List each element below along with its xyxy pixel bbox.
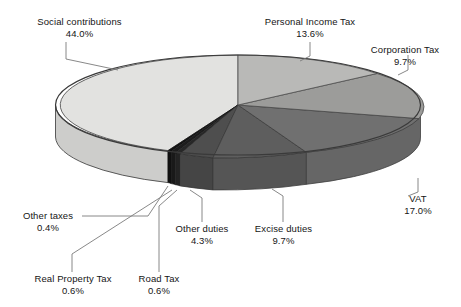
- label-personal-income-tax-value: 13.6%: [245, 28, 375, 40]
- pie-chart-figure: Social contributions 44.0% Personal Inco…: [0, 0, 461, 307]
- label-vat-name: VAT: [392, 193, 444, 205]
- pie-wall-road-tax: [176, 153, 181, 186]
- label-real-property-tax-name: Real Property Tax: [23, 273, 123, 285]
- label-other-taxes: Other taxes 0.4%: [12, 210, 84, 234]
- pie-wall-other-duties: [180, 154, 213, 190]
- label-vat-value: 17.0%: [392, 205, 444, 217]
- label-personal-income-tax: Personal Income Tax 13.6%: [245, 16, 375, 40]
- pie-wall-real-property-tax: [171, 152, 176, 185]
- label-other-taxes-value: 0.4%: [12, 222, 84, 234]
- label-corporation-tax-value: 9.7%: [355, 56, 455, 68]
- label-other-duties-name: Other duties: [158, 223, 246, 235]
- label-social-contributions: Social contributions 44.0%: [12, 16, 147, 40]
- leader-line-excise-duties: [272, 189, 283, 222]
- label-other-duties-value: 4.3%: [158, 235, 246, 247]
- label-personal-income-tax-name: Personal Income Tax: [245, 16, 375, 28]
- label-corporation-tax-name: Corporation Tax: [355, 44, 455, 56]
- label-excise-duties: Excise duties 9.7%: [236, 223, 331, 247]
- leader-line-social-contributions: [66, 42, 118, 70]
- label-other-taxes-name: Other taxes: [12, 210, 84, 222]
- label-excise-duties-name: Excise duties: [236, 223, 331, 235]
- label-real-property-tax-value: 0.6%: [23, 285, 123, 297]
- label-real-property-tax: Real Property Tax 0.6%: [23, 273, 123, 297]
- label-social-contributions-name: Social contributions: [12, 16, 147, 28]
- label-vat: VAT 17.0%: [392, 193, 444, 217]
- leader-line-other-duties: [190, 190, 202, 222]
- label-other-duties: Other duties 4.3%: [158, 223, 246, 247]
- label-road-tax-value: 0.6%: [129, 285, 189, 297]
- label-social-contributions-value: 44.0%: [12, 28, 147, 40]
- label-excise-duties-value: 9.7%: [236, 235, 331, 247]
- pie-wall-other-taxes: [168, 151, 171, 184]
- label-corporation-tax: Corporation Tax 9.7%: [355, 44, 455, 68]
- label-road-tax: Road Tax 0.6%: [129, 273, 189, 297]
- label-road-tax-name: Road Tax: [129, 273, 189, 285]
